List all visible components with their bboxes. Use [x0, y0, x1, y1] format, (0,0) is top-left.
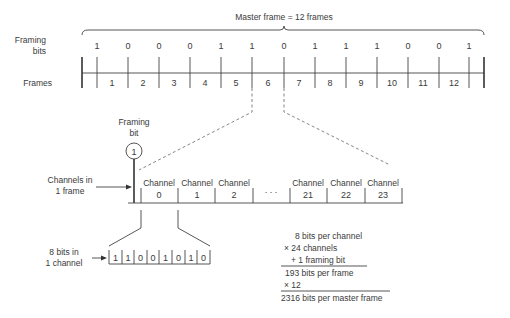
channel-number: 2	[231, 190, 236, 200]
channel-word: Channel	[218, 178, 250, 188]
channel-bit: 1	[163, 253, 168, 263]
channels-in-frame-label: Channels in	[48, 175, 93, 185]
bit-calculation: 8 bits per channel × 24 channels + 1 fra…	[281, 231, 390, 303]
framing-bit: 0	[436, 41, 441, 51]
channel-bit: 1	[113, 253, 118, 263]
calc-line-5: × 12	[284, 280, 301, 290]
frame-number: 2	[140, 78, 145, 88]
channel-word: Channel	[330, 178, 362, 188]
frame-number: 12	[449, 78, 459, 88]
channel-word: Channel	[181, 178, 213, 188]
frame-number: 4	[202, 78, 207, 88]
arrow-head-icon	[126, 185, 132, 190]
calc-line-1: 8 bits per channel	[295, 231, 362, 241]
frame-expansion-lines	[139, 88, 390, 170]
framing-bit-label: Framing	[118, 117, 149, 127]
channels-in-frame-label-2: 1 frame	[56, 186, 85, 196]
master-frame-brace	[82, 26, 484, 35]
framing-bit: 1	[466, 41, 471, 51]
channel-word: Channel	[143, 178, 175, 188]
channel-expansion-lines	[109, 210, 210, 246]
framing-bit: 0	[125, 41, 130, 51]
channel-number: 1	[194, 190, 199, 200]
framing-bit: 1	[94, 41, 99, 51]
channel-word: Channel	[367, 178, 399, 188]
channel-ellipsis: . . .	[265, 185, 278, 195]
channel-bit: 0	[150, 253, 155, 263]
channel-word: Channel	[292, 178, 324, 188]
channel-bit: 0	[176, 253, 181, 263]
framing-bit: 1	[312, 41, 317, 51]
channel-number: 21	[303, 190, 313, 200]
frame-number: 5	[233, 78, 238, 88]
master-frame-title: Master frame = 12 frames	[235, 12, 333, 22]
framing-bit: 0	[281, 41, 286, 51]
framing-bit: 0	[156, 41, 161, 51]
channel-number: 0	[156, 190, 161, 200]
framing-bit: 1	[374, 41, 379, 51]
calc-line-2: × 24 channels	[284, 243, 337, 253]
framing-bit: 0	[187, 41, 192, 51]
framing-bit: 0	[405, 41, 410, 51]
framing-bits-label-2: bits	[33, 46, 46, 56]
framing-bit: 1	[218, 41, 223, 51]
channel-bit: 1	[125, 253, 130, 263]
frame-number: 11	[418, 78, 427, 88]
framing-bits-label: Framing	[15, 35, 46, 45]
calc-line-4: 193 bits per frame	[285, 268, 354, 278]
arrow-head-icon	[101, 256, 107, 261]
channel-bits-box: 1 1 0 0 1 0 1 0	[109, 250, 210, 264]
framing-bit: 1	[249, 41, 254, 51]
channel-number: 22	[341, 190, 351, 200]
t1-frame-diagram: Master frame = 12 frames Framing bits Fr…	[0, 0, 510, 318]
channel-bit: 0	[138, 253, 143, 263]
calc-line-6: 2316 bits per master frame	[281, 293, 383, 303]
calc-line-3: + 1 framing bit	[291, 255, 346, 265]
channel-labels: Channel 0 Channel 1 Channel 2 . . . Chan…	[143, 178, 399, 200]
bits-in-channel-label-2: 1 channel	[46, 258, 83, 268]
frame-number: 3	[171, 78, 176, 88]
channel-bit: 0	[201, 253, 206, 263]
frame-number: 9	[358, 78, 363, 88]
frame-number: 7	[296, 78, 301, 88]
framing-bit-value: 1	[131, 147, 136, 157]
frame-number: 10	[387, 78, 397, 88]
frame-number: 6	[265, 78, 270, 88]
framing-bits-row: 1 0 0 0 1 1 0 1 1 1 0 0 1	[94, 41, 471, 51]
frames-label: Frames	[23, 78, 52, 88]
channel-bit: 1	[188, 253, 193, 263]
bits-in-channel-label: 8 bits in	[49, 247, 79, 257]
frame-number: 8	[327, 78, 332, 88]
framing-bit: 1	[343, 41, 348, 51]
framing-bit-label-2: bit	[130, 128, 140, 138]
frame-number: 1	[109, 78, 114, 88]
channel-number: 23	[378, 190, 388, 200]
